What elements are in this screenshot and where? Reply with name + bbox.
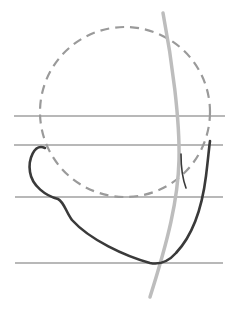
head-construction-drawing (0, 0, 236, 313)
background (0, 0, 236, 313)
